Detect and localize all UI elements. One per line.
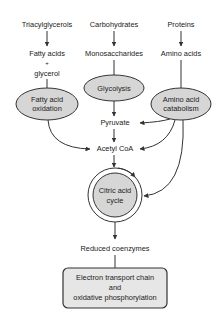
label-etc-1: Electron transport chain — [76, 273, 154, 282]
label-glycerol: glycerol — [34, 69, 60, 78]
label-fao-2: oxidation — [32, 104, 62, 113]
label-monosaccharides: Monosaccharides — [85, 49, 143, 58]
label-glycolysis: Glycolysis — [97, 84, 131, 93]
metabolism-diagram: Triacylglycerols Carbohydrates Proteins … — [0, 0, 224, 312]
label-carbohydrates: Carbohydrates — [90, 20, 139, 29]
arrow-fao-to-acetylcoa — [48, 120, 90, 149]
label-plus: + — [45, 60, 49, 66]
label-proteins: Proteins — [167, 20, 194, 29]
label-tca-1: Citric acid — [99, 186, 131, 195]
label-fatty-acids: Fatty acids — [29, 49, 65, 58]
label-pyruvate: Pyruvate — [100, 118, 129, 127]
label-triacylglycerols: Triacylglycerols — [22, 20, 73, 29]
arrow-aac-to-tca — [144, 120, 183, 196]
arrow-aac-to-acetylcoa — [140, 120, 175, 149]
label-aac-2: catabolism — [163, 104, 198, 113]
label-reduced-coenzymes: Reduced coenzymes — [80, 244, 149, 253]
label-fao-1: Fatty acid — [31, 95, 63, 104]
node-citric-acid-cycle — [93, 173, 137, 217]
label-aac-1: Amino acid — [163, 95, 200, 104]
label-tca-2: cycle — [107, 196, 124, 205]
arrow-aac-to-pyruvate — [140, 119, 170, 123]
label-amino-acids: Amino acids — [161, 49, 202, 58]
label-acetyl-coa: Acetyl CoA — [97, 144, 134, 153]
label-etc-3: oxidative phosphorylation — [73, 293, 156, 302]
label-etc-2: and — [109, 283, 121, 292]
